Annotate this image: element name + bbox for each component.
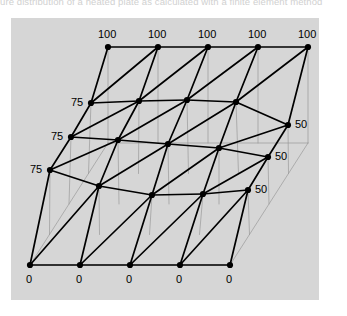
mesh-edge-row <box>50 170 99 186</box>
mesh-node <box>227 262 233 268</box>
node-drop-line <box>187 100 189 174</box>
node-drop-line <box>50 170 51 235</box>
mesh-node <box>115 137 121 143</box>
mesh-edge-row <box>219 148 268 157</box>
mesh-edge-col <box>288 47 308 125</box>
node-value-label-top: 100 <box>298 29 316 40</box>
node-value-label-left: 75 <box>51 131 63 142</box>
mesh-edge-row <box>91 101 139 103</box>
mesh-node <box>285 122 291 128</box>
mesh-node <box>216 145 222 151</box>
mesh-edge-diagonal <box>152 148 219 195</box>
node-value-label-right: 50 <box>295 119 307 130</box>
mesh-edge-diagonal <box>168 102 236 144</box>
mesh-node <box>233 99 239 105</box>
node-value-label-left: 75 <box>30 164 42 175</box>
mesh-node <box>177 262 183 268</box>
mesh-edge-row <box>236 102 288 125</box>
mesh-node <box>245 187 251 193</box>
mesh-edge-row <box>187 100 236 102</box>
mesh-edge-diagonal <box>180 190 248 265</box>
mesh-edge-col <box>30 170 50 265</box>
mesh-node <box>255 44 261 50</box>
mesh-node <box>47 167 53 173</box>
mesh-node <box>205 44 211 50</box>
mesh-node <box>149 192 155 198</box>
mesh-node <box>77 262 83 268</box>
mesh-edge-col <box>230 190 248 265</box>
node-value-label-bottom: 0 <box>126 274 132 285</box>
node-drop-line <box>118 140 119 204</box>
mesh-node <box>305 44 311 50</box>
mesh-plot <box>0 0 347 316</box>
node-drop-line <box>69 137 71 204</box>
node-drop-line <box>268 157 269 204</box>
mesh-edge-row <box>118 140 168 144</box>
mesh-edge-col <box>219 102 236 148</box>
mesh-edge-row <box>139 100 187 101</box>
mesh-node <box>184 97 190 103</box>
node-value-label-bottom: 0 <box>26 274 32 285</box>
node-drop-line <box>288 125 289 174</box>
node-value-label-top: 100 <box>148 29 166 40</box>
node-value-label-left: 75 <box>71 97 83 108</box>
mesh-node <box>96 183 102 189</box>
mesh-edge-row <box>99 186 152 195</box>
mesh-edge-diagonal <box>219 125 288 148</box>
node-drop-line <box>248 190 250 235</box>
node-value-label-bottom: 0 <box>176 274 182 285</box>
mesh-edge-row <box>71 137 118 140</box>
mesh-node <box>105 44 111 50</box>
node-drop-line <box>99 186 100 235</box>
node-value-label-right: 50 <box>275 151 287 162</box>
mesh-node <box>165 141 171 147</box>
mesh-node <box>136 98 142 104</box>
mesh-node <box>155 44 161 50</box>
mesh-edge-row <box>152 194 203 195</box>
node-value-label-top: 100 <box>98 29 116 40</box>
mesh-edge-col <box>91 47 108 103</box>
mesh-node <box>27 262 33 268</box>
mesh-node <box>200 191 206 197</box>
mesh-edge-row <box>168 144 219 148</box>
mesh-node <box>68 134 74 140</box>
node-value-label-top: 100 <box>198 29 216 40</box>
node-value-label-right: 50 <box>255 184 267 195</box>
node-value-label-bottom: 0 <box>226 274 232 285</box>
node-drop-line <box>236 102 239 174</box>
node-value-label-bottom: 0 <box>76 274 82 285</box>
mesh-node <box>265 154 271 160</box>
mesh-node <box>88 100 94 106</box>
node-value-label-top: 100 <box>248 29 266 40</box>
mesh-node <box>127 262 133 268</box>
